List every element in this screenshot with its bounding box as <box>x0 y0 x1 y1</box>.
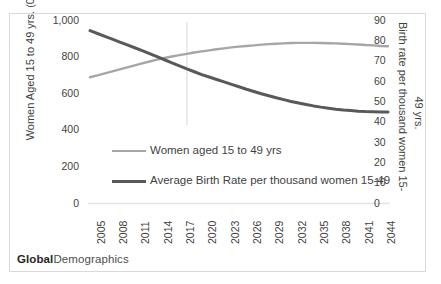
right-axis-tick-20: 20 <box>374 157 404 167</box>
legend-swatch-0 <box>112 150 146 152</box>
left-axis-tick-0: 0 <box>33 198 79 208</box>
x-axis-tick-2026: 2026 <box>251 221 263 244</box>
left-axis-tick-1000: 1,000 <box>33 15 79 25</box>
x-axis-tick-2014: 2014 <box>162 221 174 244</box>
x-axis-tick-2011: 2011 <box>139 221 151 244</box>
x-axis-tick-2038: 2038 <box>340 221 352 244</box>
right-axis-tick-70: 70 <box>374 55 404 65</box>
watermark-global-demographics: GlobalDemographics <box>17 253 129 265</box>
legend-label-1: Average Birth Rate per thousand women 15… <box>150 173 395 187</box>
x-axis-tick-2008: 2008 <box>117 221 129 244</box>
x-axis-tick-2020: 2020 <box>206 221 218 244</box>
left-axis-tick-800: 800 <box>33 51 79 61</box>
right-axis-tick-40: 40 <box>374 116 404 126</box>
right-axis-tick-90: 90 <box>374 15 404 25</box>
right-axis-tick-60: 60 <box>374 76 404 86</box>
x-axis-tick-2017: 2017 <box>184 221 196 244</box>
right-axis-title-line-2: 49 yrs. <box>412 22 425 204</box>
x-axis-tick-2005: 2005 <box>95 221 107 244</box>
right-axis-tick-80: 80 <box>374 35 404 45</box>
legend-swatch-1 <box>112 180 146 183</box>
watermark-brand-rest: Demographics <box>53 253 128 265</box>
legend-label-0: Women aged 15 to 49 yrs <box>150 143 380 157</box>
x-axis-tick-2041: 2041 <box>363 221 375 244</box>
x-axis-tick-2023: 2023 <box>229 221 241 244</box>
x-axis-tick-2044: 2044 <box>385 221 397 244</box>
x-axis-tick-2029: 2029 <box>273 221 285 244</box>
right-axis-tick-0: 0 <box>374 198 404 208</box>
watermark-brand-bold: Global <box>17 253 53 265</box>
x-axis-tick-2035: 2035 <box>318 221 330 244</box>
x-axis-tick-2032: 2032 <box>296 221 308 244</box>
right-axis-tick-50: 50 <box>374 96 404 106</box>
left-axis-tick-200: 200 <box>33 161 79 171</box>
left-axis-tick-600: 600 <box>33 88 79 98</box>
left-axis-tick-400: 400 <box>33 124 79 134</box>
